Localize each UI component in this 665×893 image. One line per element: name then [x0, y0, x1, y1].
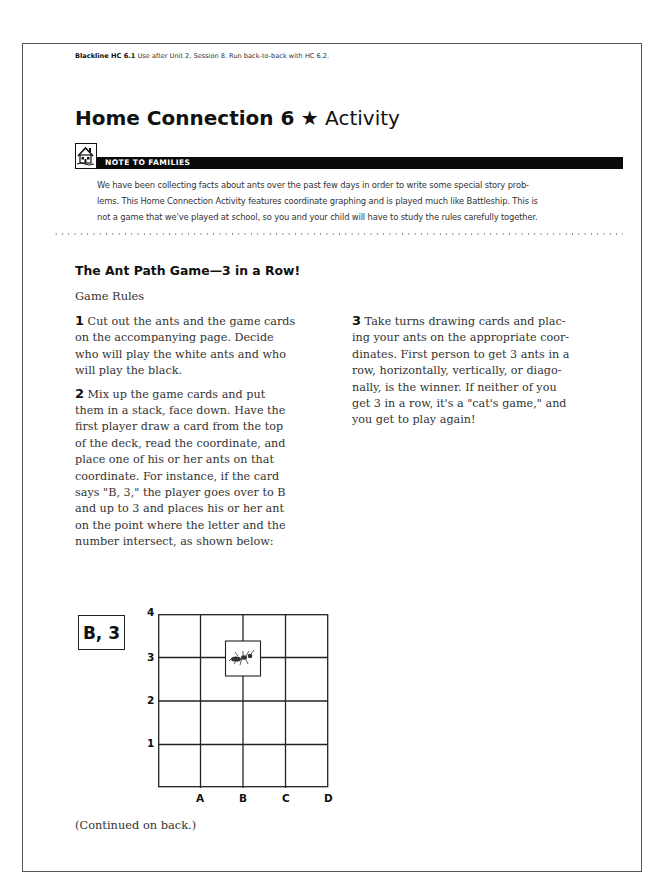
- x-label-d: D: [324, 792, 333, 804]
- rule-step-2: 2 Mix up the game cards and put them in …: [75, 386, 335, 551]
- title-main: Home Connection 6: [75, 106, 294, 130]
- dotted-divider: [53, 233, 623, 235]
- rule-step-1: 1 Cut out the ants and the game cards on…: [75, 313, 335, 380]
- step-number: 3: [352, 313, 361, 328]
- x-label-c: C: [282, 792, 290, 804]
- blackline-note: Use after Unit 2, Session 8. Run back-to…: [137, 52, 329, 60]
- y-label-1: 1: [147, 737, 154, 749]
- title-activity: Activity: [325, 106, 400, 130]
- blackline-label: Blackline HC 6.1: [75, 52, 135, 60]
- x-label-a: A: [196, 792, 204, 804]
- note-to-families-bar: NOTE TO FAMILIES: [97, 157, 623, 169]
- page-title: Home Connection 6 ★ Activity: [75, 106, 400, 130]
- blackline-header: Blackline HC 6.1 Use after Unit 2, Sessi…: [75, 52, 329, 60]
- cropped-top-text: [0, 0, 665, 6]
- step-number: 2: [75, 386, 84, 401]
- star-icon: ★: [301, 106, 319, 130]
- note-line: not a game that we've played at school, …: [97, 209, 627, 225]
- y-label-2: 2: [147, 694, 154, 706]
- rule-step-3: 3 Take turns drawing cards and plac- ing…: [352, 313, 622, 429]
- note-label: NOTE TO FAMILIES: [105, 158, 190, 167]
- note-text: We have been collecting facts about ants…: [97, 177, 627, 225]
- rules-column-left: 1 Cut out the ants and the game cards on…: [75, 313, 335, 557]
- house-icon: [75, 143, 97, 169]
- y-label-3: 3: [147, 651, 154, 663]
- note-line: We have been collecting facts about ants…: [97, 177, 627, 193]
- x-label-b: B: [239, 792, 247, 804]
- game-rules-label: Game Rules: [75, 289, 144, 303]
- rules-column-right: 3 Take turns drawing cards and plac- ing…: [352, 313, 622, 435]
- step-number: 1: [75, 313, 84, 328]
- coordinate-grid: [158, 614, 328, 788]
- y-label-4: 4: [147, 606, 154, 618]
- section-heading: The Ant Path Game—3 in a Row!: [75, 263, 300, 278]
- continued-on-back: (Continued on back.): [75, 818, 196, 832]
- ant-icon: [226, 641, 261, 676]
- note-line: lems. This Home Connection Activity feat…: [97, 193, 627, 209]
- game-card-example: B, 3: [78, 615, 125, 650]
